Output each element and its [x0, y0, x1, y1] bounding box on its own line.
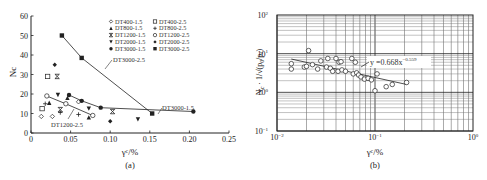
x-tick-label: 0.20 — [182, 135, 196, 144]
annotation-arrow — [68, 109, 74, 119]
open-circle-marker — [404, 80, 409, 85]
plus-marker — [43, 102, 47, 106]
open-circle-marker — [304, 64, 309, 69]
open-circle-marker — [390, 82, 395, 87]
x-tick-label: 100 — [468, 133, 479, 143]
filled-circle-marker — [109, 47, 112, 50]
y-tick-label: 0 — [24, 129, 28, 138]
filled-diamond-marker — [53, 63, 57, 67]
open-circle-marker — [319, 59, 324, 64]
filled-square-marker — [60, 33, 64, 37]
open-diamond-marker — [39, 114, 43, 118]
annotation-arrow — [105, 60, 112, 69]
filled-triangle-up-marker — [109, 27, 112, 30]
plus-marker — [76, 112, 80, 116]
open-circle-marker — [64, 102, 68, 106]
open-circle-marker — [369, 78, 374, 83]
filled-square-marker — [150, 111, 154, 115]
open-diamond-marker — [109, 20, 112, 23]
filled-triangle-down-marker — [56, 93, 60, 97]
filled-circle-marker — [67, 93, 71, 97]
chart-b-xlabel: γᶜ/% — [366, 147, 384, 157]
x-tick-label: 10−1 — [368, 133, 382, 143]
chart-b-ylabel: Nc · 1/√(p₀/pₐ) — [255, 49, 265, 96]
x-tick-label: 0.25 — [222, 135, 236, 144]
x-tick-label: 10−2 — [270, 133, 284, 143]
open-circle-marker — [310, 62, 315, 67]
chart-a: 00.050.100.150.200.250102030405060 DT400… — [8, 12, 236, 170]
filled-triangle-down-marker — [136, 117, 140, 121]
y-tick-label: 60 — [20, 12, 28, 21]
x-tick-label: 0.05 — [64, 135, 78, 144]
open-circle-marker — [306, 48, 311, 53]
filled-square-marker — [79, 56, 83, 60]
x-tick-label: 0.10 — [103, 135, 117, 144]
open-circle-marker — [315, 67, 320, 72]
chart-a-ylabel: Nc — [8, 67, 18, 78]
series-line — [47, 96, 93, 116]
y-tick-label: 20 — [20, 90, 28, 99]
x-tick-label: 0.15 — [143, 135, 157, 144]
plus-marker — [153, 27, 156, 30]
open-circle-marker — [289, 67, 294, 72]
y-tick-label: 10−1 — [255, 127, 269, 137]
open-circle-marker — [289, 61, 294, 66]
y-tick-label: 40 — [20, 51, 28, 60]
svg-text:Nc · 1/√(p₀/pₐ): Nc · 1/√(p₀/pₐ) — [255, 49, 265, 96]
open-circle-marker — [326, 56, 331, 61]
x-tick-label: 0 — [29, 135, 33, 144]
chart-b: 10−210−110010−1100101102 y =0.668x−0.559… — [255, 11, 479, 171]
chart-a-xlabel: γᶜ/% — [121, 147, 139, 157]
open-circle-marker — [330, 69, 335, 74]
open-circle-marker — [353, 60, 358, 65]
chart-a-legend: DT400-1.5DT400-2.5DT800-1.5DT800-2.5DT12… — [109, 18, 189, 52]
filled-diamond-marker — [108, 119, 112, 123]
open-square-marker — [40, 106, 44, 110]
open-circle-marker — [350, 56, 355, 61]
open-square-marker — [45, 74, 49, 78]
open-circle-marker — [373, 88, 378, 93]
y-tick-label: 30 — [20, 71, 28, 80]
legend-item-label: DT3000-1.5 — [115, 45, 145, 52]
y-tick-label: 50 — [20, 32, 28, 41]
open-circle-marker — [91, 113, 95, 117]
filled-square-marker — [153, 47, 156, 50]
open-circle-marker — [153, 33, 156, 36]
open-circle-marker — [343, 69, 348, 74]
open-diamond-marker — [50, 114, 54, 118]
open-circle-marker — [339, 59, 344, 64]
open-circle-marker — [375, 72, 380, 77]
annotation-arrow — [158, 108, 162, 114]
annotation-dt3000-1.5: DT3000-1.5 — [162, 104, 194, 111]
legend-item-label: DT3000-2.5 — [159, 45, 189, 52]
filled-circle-marker — [79, 99, 83, 103]
filled-triangle-down-marker — [87, 106, 91, 110]
open-circle-marker — [384, 84, 389, 89]
filled-triangle-down-marker — [109, 40, 112, 43]
y-tick-label: 102 — [258, 11, 269, 21]
x-star-marker — [109, 33, 112, 36]
annotation-dt3000-2.5: DT3000-2.5 — [113, 56, 145, 63]
chart-a-caption: (a) — [125, 160, 135, 170]
filled-triangle-up-marker — [47, 101, 51, 105]
filled-circle-marker — [98, 105, 102, 109]
annotation-dt1200-2.5: DT1200-2.5 — [51, 121, 83, 128]
x-star-marker — [55, 74, 59, 78]
x-star-marker — [110, 109, 114, 113]
open-square-marker — [153, 20, 156, 23]
filled-diamond-marker — [153, 40, 156, 43]
chart-b-points — [289, 48, 409, 93]
open-circle-marker — [45, 94, 49, 98]
y-tick-label: 10 — [20, 110, 28, 119]
chart-b-caption: (b) — [370, 160, 380, 170]
figure: 00.050.100.150.200.250102030405060 DT400… — [0, 0, 487, 180]
